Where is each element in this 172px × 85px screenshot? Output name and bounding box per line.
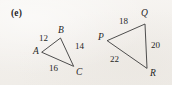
side-length-bc: 14 bbox=[75, 42, 84, 51]
vertex-label-c: C bbox=[76, 68, 82, 78]
side-length-pr: 22 bbox=[110, 55, 119, 64]
vertex-label-r: R bbox=[150, 69, 156, 79]
part-label: (e) bbox=[11, 9, 22, 19]
side-length-qr: 20 bbox=[151, 41, 160, 50]
vertex-label-p: P bbox=[98, 33, 104, 43]
vertex-label-b: B bbox=[58, 26, 64, 36]
side-length-ab: 12 bbox=[39, 34, 48, 43]
vertex-label-q: Q bbox=[141, 9, 148, 19]
side-length-ac: 16 bbox=[49, 64, 58, 73]
figure-container: (e) A B C 12 14 16 P Q R 18 20 22 bbox=[0, 0, 172, 85]
vertex-label-a: A bbox=[33, 47, 39, 57]
side-length-pq: 18 bbox=[119, 17, 128, 26]
